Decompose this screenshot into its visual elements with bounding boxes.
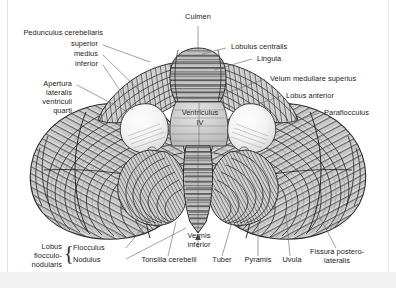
label-tuber: Tuber [208,256,236,265]
label-flocculus: Flocculus [73,244,105,253]
vermis-inferior [183,146,213,233]
label-lingula: Lingula [257,55,281,64]
label-velum-medullare-superius: Velum medullare superius [270,75,356,84]
label-lobulus-centralis: Lobulus centralis [231,43,287,52]
label-ventriculus-quartus-line2: IV [176,119,224,128]
label-lobus-anterior: Lobus anterior [286,92,334,101]
label-culmen: Culmen [178,13,218,22]
label-fissura-posterolateralis-line2: lateralis [306,257,368,266]
label-nodulus: Nodulus [73,256,100,265]
anatomical-figure: Culmen Pedunculus cerebellaris superior … [0,0,396,288]
label-lobus-flocculonodularis-line3: nodularis [10,261,62,270]
label-paraflocculus: Paraflocculus [324,109,369,118]
label-tonsilla-cerebelli: Tonsilla cerebelli [133,256,205,265]
label-apertura-lateralis-line4: quarti [14,107,72,116]
label-pedunculus-inferior: inferior [38,60,98,69]
tonsilla-cerebelli-right [209,150,278,225]
vermis-superior [168,48,228,102]
figure-footer-band [0,272,396,288]
tonsilla-cerebelli-left [118,150,187,225]
label-pedunculus-medius: medius [38,50,98,59]
label-pedunculus-cerebellaris: Pedunculus cerebellaris [18,29,103,38]
label-pedunculus-superior: superior [38,40,98,49]
label-vermis-inferior-line2: inferior [174,241,224,250]
label-ventriculus-quartus-line1: Ventriculus [176,109,224,118]
label-pyramis: Pyramis [240,256,276,265]
label-uvula: Uvula [277,256,307,265]
